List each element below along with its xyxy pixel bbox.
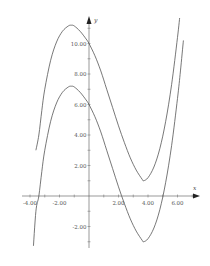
y-tick-label: 2.00 — [74, 163, 87, 169]
y-tick-label: 8.00 — [74, 71, 87, 77]
x-tick-label: 2.00 — [112, 200, 125, 206]
curve-lower — [33, 40, 183, 254]
curve-upper — [36, 0, 184, 181]
plot-curves — [33, 0, 183, 254]
x-tick-label: -2.00 — [52, 200, 67, 206]
x-axis-label: x — [193, 184, 197, 191]
y-axis-arrow-icon — [87, 16, 92, 24]
y-tick-label: 6.00 — [74, 102, 87, 108]
axis-ticks: -4.00-2.002.004.006.00-2.002.004.006.008… — [23, 28, 192, 242]
x-tick-label: -4.00 — [23, 200, 38, 206]
y-axis-label: y — [93, 16, 98, 24]
function-plot: x y -4.00-2.002.004.006.00-2.002.004.006… — [0, 0, 210, 266]
x-tick-label: 4.00 — [142, 200, 155, 206]
x-axis-arrow-icon — [193, 194, 200, 199]
y-tick-label: -2.00 — [72, 224, 87, 230]
x-tick-label: 6.00 — [171, 200, 184, 206]
y-tick-label: 10.00 — [71, 41, 87, 47]
y-tick-label: 4.00 — [74, 132, 87, 138]
